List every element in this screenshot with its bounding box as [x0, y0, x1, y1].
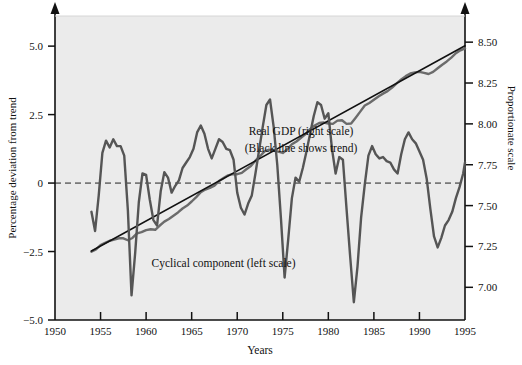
right-axis-title: Proportionate scale: [506, 86, 518, 171]
left-tick-label: −2.5: [23, 246, 43, 258]
x-tick-label: 1980: [317, 325, 340, 337]
business-cycle-chart: −5.0−2.502.55.07.007.257.507.758.008.258…: [0, 0, 522, 365]
x-tick-label: 1950: [44, 325, 67, 337]
right-tick-label: 8.25: [478, 77, 498, 89]
right-tick-label: 7.25: [478, 240, 498, 252]
left-tick-label: 0: [38, 177, 44, 189]
right-tick-label: 8.00: [478, 118, 498, 130]
plot-background: [55, 16, 465, 320]
right-tick-label: 7.00: [478, 281, 498, 293]
chart-figure: −5.0−2.502.55.07.007.257.507.758.008.258…: [0, 0, 522, 365]
x-tick-label: 1990: [408, 325, 431, 337]
x-axis-title: Years: [247, 344, 273, 356]
x-tick-label: 1975: [272, 325, 295, 337]
left-axis-title: Percentage deviation from trend: [6, 97, 18, 239]
gdp-annotation-line1: Real GDP (right scale): [249, 125, 354, 138]
gdp-annotation-line2: (Black line shows trend): [245, 142, 358, 155]
left-tick-label: −5.0: [23, 314, 43, 326]
x-tick-label: 1955: [90, 325, 113, 337]
x-tick-label: 1970: [226, 325, 249, 337]
left-tick-label: 2.5: [29, 109, 43, 121]
x-tick-label: 1995: [454, 325, 477, 337]
right-tick-label: 8.50: [478, 36, 498, 48]
left-axis-arrow-icon: [51, 2, 60, 14]
x-tick-label: 1985: [363, 325, 386, 337]
right-axis-arrow-icon: [461, 2, 470, 14]
right-tick-label: 7.75: [478, 159, 498, 171]
x-tick-label: 1960: [135, 325, 158, 337]
right-tick-label: 7.50: [478, 200, 498, 212]
cyclical-annotation: Cyclical component (left scale): [152, 257, 296, 270]
left-tick-label: 5.0: [29, 40, 43, 52]
x-tick-label: 1965: [181, 325, 204, 337]
